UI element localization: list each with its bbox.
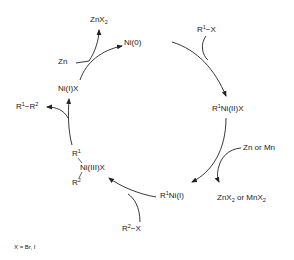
r1r2-label: R1−R2 xyxy=(16,102,38,112)
ni3-r1-label: R1 xyxy=(72,149,81,159)
oxidative-addition-arrow xyxy=(172,42,226,96)
r1ni2x-label: R1Ni(II)X xyxy=(212,104,244,114)
second-oxidative-addition-arrow xyxy=(109,178,156,197)
reductive-elimination-arrow xyxy=(68,99,72,145)
ni1x-label: Ni(I)X xyxy=(58,84,78,94)
footnote: X = Br, I xyxy=(14,242,36,252)
r1x-label: R1−X xyxy=(197,25,216,35)
reduction-arrow xyxy=(192,118,226,182)
zn-or-mn-label: Zn or Mn xyxy=(243,143,275,153)
zn-mn-incoming-curve xyxy=(219,148,241,166)
r2x-incoming-curve xyxy=(128,194,140,222)
znx2-label: ZnX2 xyxy=(90,15,108,25)
r1x-incoming-curve xyxy=(202,36,208,60)
znx2-mnx2-outgoing-curve xyxy=(218,166,220,182)
cycle-arrows xyxy=(0,0,294,260)
regeneration-arrow xyxy=(80,46,122,80)
r1ni1-label: R1Ni(I) xyxy=(160,191,184,201)
ni3-r2-label: R2 xyxy=(72,178,81,188)
znx2-or-mnx2-label: ZnX2 or MnX2 xyxy=(217,193,266,203)
ni3-center-label: Ni(III)X xyxy=(80,163,105,173)
ni0-label: Ni(0) xyxy=(124,38,141,48)
zn-incoming-line xyxy=(76,61,89,63)
zn-label: Zn xyxy=(58,57,67,67)
r2x-label: R2−X xyxy=(122,224,141,234)
r1r2-outgoing-curve xyxy=(47,107,68,118)
